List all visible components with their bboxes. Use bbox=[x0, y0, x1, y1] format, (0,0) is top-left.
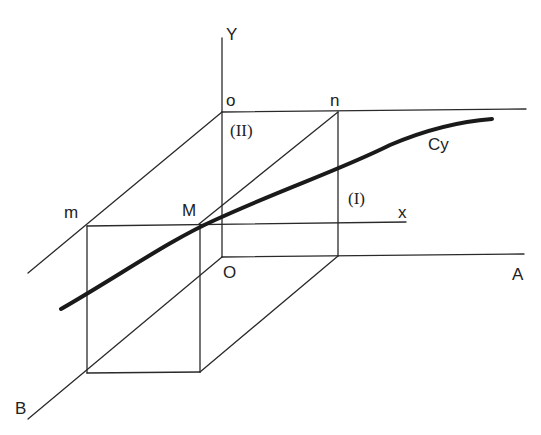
b-axis-label: B bbox=[15, 399, 26, 418]
point-o-label: o bbox=[226, 91, 235, 110]
top-horizontal-line bbox=[222, 109, 526, 112]
bottom-horizontal-line bbox=[87, 372, 200, 373]
y-axis-label: Y bbox=[226, 25, 237, 44]
n-M-diagonal-line bbox=[199, 112, 338, 224]
axonometric-diagram: Y o n (II) Cy (I) x m M O A B bbox=[0, 0, 541, 435]
o-m-diagonal-line bbox=[28, 112, 222, 273]
bottom-diagonal-line bbox=[200, 256, 338, 372]
a-axis-line bbox=[222, 254, 524, 257]
curve-label: Cy bbox=[428, 135, 449, 154]
point-n-label: n bbox=[330, 91, 339, 110]
a-axis-label: A bbox=[512, 265, 524, 284]
region-1-label: (I) bbox=[348, 189, 365, 208]
b-axis-line bbox=[28, 257, 222, 419]
point-M-label: M bbox=[182, 201, 196, 220]
region-2-label: (II) bbox=[230, 121, 253, 140]
origin-label: O bbox=[223, 263, 236, 282]
point-m-label: m bbox=[64, 203, 78, 222]
x-axis-line bbox=[87, 222, 406, 226]
x-axis-label: x bbox=[398, 203, 407, 222]
